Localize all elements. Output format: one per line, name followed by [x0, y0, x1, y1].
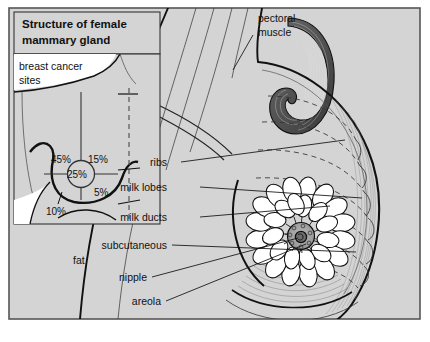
inset-title-line1: Structure of female	[22, 18, 127, 30]
quadrant-value-upper-inner: 15%	[88, 154, 108, 165]
label-milk-lobes: milk lobes	[120, 181, 167, 193]
anatomy-illustration: Structure of female mammary gland breast…	[0, 0, 430, 342]
nipple-shape	[295, 231, 306, 242]
figure-container: Structure of female mammary gland breast…	[0, 0, 430, 342]
label-pectoral-line1: pectoral	[258, 12, 295, 24]
quadrant-value-lower-inner: 5%	[94, 187, 109, 198]
label-milk-ducts: milk ducts	[120, 211, 167, 223]
label-nipple: nipple	[119, 271, 147, 283]
quadrant-value-lower-outer: 10%	[46, 206, 66, 217]
quadrant-value-central: 25%	[67, 169, 87, 180]
inset-caption-line2: sites	[19, 74, 41, 86]
inset-caption-line1: breast cancer	[19, 60, 83, 72]
label-pectoral-line2: muscle	[258, 26, 291, 38]
label-subcutaneous-line1: subcutaneous	[102, 239, 167, 251]
label-areola: areola	[132, 295, 161, 307]
quadrant-value-upper-outer: 45%	[51, 154, 71, 165]
inset-title-line2: mammary gland	[22, 34, 110, 46]
label-subcutaneous-line2: fat	[73, 254, 85, 266]
label-ribs: ribs	[150, 156, 167, 168]
